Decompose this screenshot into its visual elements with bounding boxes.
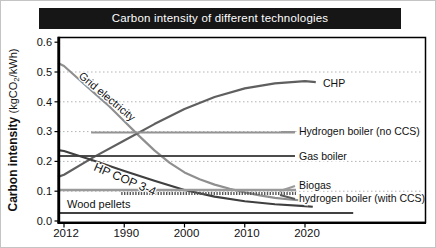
plot-area: CHPHydrogen boiler (no CCS)Gas boilerBio… [1, 1, 436, 248]
x-tick-label: 2020 [294, 227, 320, 239]
hydrogen-with-ccs-label: hydrogen boiler (with CCS) [299, 192, 425, 204]
y-tick-label: 0.0 [37, 215, 52, 227]
biogas-label: Biogas [299, 179, 331, 191]
chp-label: CHP [323, 77, 345, 89]
y-tick-label: 0.5 [37, 66, 52, 78]
y-axis-title: Carbon intensity (kgCO2/kWh) [6, 49, 21, 212]
wood-pellets-label: Wood pellets [67, 198, 131, 210]
grid-electricity-label: Grid electricity [77, 69, 138, 123]
y-tick-label: 0.1 [37, 185, 52, 197]
gas-boiler-label: Gas boiler [299, 150, 347, 162]
x-tick-label: 1990 [113, 227, 139, 239]
chart-figure: Carbon intensity of different technologi… [0, 0, 436, 248]
y-tick-label: 0.4 [37, 96, 52, 108]
x-tick-label: 2010 [234, 227, 260, 239]
x-tick-label: 2000 [174, 227, 200, 239]
x-tick-label: 2012 [53, 227, 79, 239]
y-tick-label: 0.2 [37, 155, 52, 167]
y-tick-label: 0.3 [37, 125, 52, 137]
y-tick-label: 0.6 [37, 36, 52, 48]
hydrogen-no-ccs-label: Hydrogen boiler (no CCS) [299, 125, 420, 137]
